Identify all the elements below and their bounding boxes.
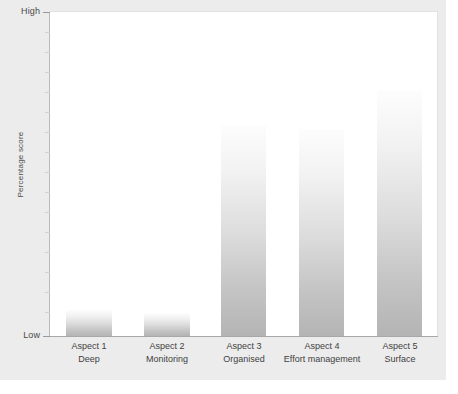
- x-axis-label-aspect-2-desc: Monitoring: [127, 353, 207, 366]
- y-axis-minor-tick: [45, 252, 50, 253]
- y-axis-minor-tick: [45, 172, 50, 173]
- y-axis-minor-tick: [45, 32, 50, 33]
- x-axis-label-aspect-5: Aspect 5 Surface: [360, 340, 440, 365]
- y-axis-tick-high: [43, 12, 50, 13]
- y-axis-minor-tick: [45, 312, 50, 313]
- x-axis-label-aspect-4-desc: Effort management: [282, 353, 362, 366]
- x-axis-line: [49, 336, 438, 337]
- bar-chart-figure: High Low Percentage score Aspect 1 Deep …: [0, 0, 458, 394]
- y-axis-title: Percentage score: [16, 75, 25, 255]
- x-axis-label-aspect-1: Aspect 1 Deep: [49, 340, 129, 365]
- x-axis-label-aspect-2: Aspect 2 Monitoring: [127, 340, 207, 365]
- bar-aspect-4[interactable]: [299, 129, 344, 336]
- y-axis-minor-tick: [45, 92, 50, 93]
- y-axis-minor-tick: [45, 192, 50, 193]
- y-axis-tick-low: [43, 336, 50, 337]
- y-axis-minor-tick: [45, 212, 50, 213]
- x-axis-label-aspect-5-desc: Surface: [360, 353, 440, 366]
- x-axis-label-aspect-1-name: Aspect 1: [49, 340, 129, 353]
- y-axis-minor-tick: [45, 232, 50, 233]
- y-axis-minor-tick: [45, 132, 50, 133]
- y-axis-minor-tick: [45, 272, 50, 273]
- bar-aspect-3[interactable]: [221, 125, 266, 336]
- x-axis-label-aspect-1-desc: Deep: [49, 353, 129, 366]
- figure-caption: [4, 383, 454, 393]
- bar-aspect-5[interactable]: [377, 90, 422, 336]
- y-axis-minor-tick: [45, 72, 50, 73]
- x-axis-label-aspect-3-name: Aspect 3: [204, 340, 284, 353]
- x-axis-label-aspect-2-name: Aspect 2: [127, 340, 207, 353]
- y-axis-high-label: High: [0, 6, 40, 16]
- y-axis-minor-tick: [45, 152, 50, 153]
- bar-aspect-2[interactable]: [144, 313, 190, 336]
- y-axis-minor-tick: [45, 112, 50, 113]
- y-axis-minor-tick: [45, 292, 50, 293]
- bar-aspect-1[interactable]: [66, 310, 112, 336]
- x-axis-label-aspect-4: Aspect 4 Effort management: [282, 340, 362, 365]
- x-axis-label-aspect-3-desc: Organised: [204, 353, 284, 366]
- y-axis-low-label: Low: [0, 330, 40, 340]
- y-axis-line: [49, 12, 50, 337]
- x-axis-label-aspect-5-name: Aspect 5: [360, 340, 440, 353]
- x-axis-label-aspect-3: Aspect 3 Organised: [204, 340, 284, 365]
- y-axis-minor-tick: [45, 52, 50, 53]
- x-axis-label-aspect-4-name: Aspect 4: [282, 340, 362, 353]
